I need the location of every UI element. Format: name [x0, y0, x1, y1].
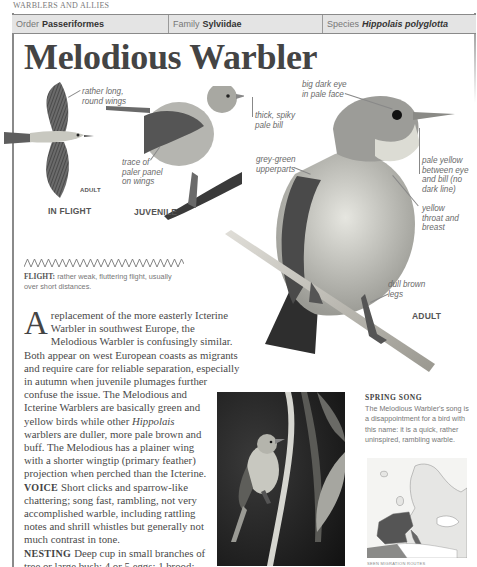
distribution-map — [367, 458, 467, 558]
species-key: Species — [327, 19, 359, 29]
annotation-eye: big dark eyein pale face — [302, 80, 347, 99]
section-label: WARBLERS AND ALLIES — [13, 1, 109, 10]
flight-description: FLIGHT: rather weak, fluttering flight, … — [24, 272, 184, 292]
page-title: Melodious Warbler — [24, 36, 317, 78]
intro-continued: Icterine Warblers are basically green an… — [24, 401, 214, 480]
species-value: Hippolais polyglotta — [362, 19, 448, 29]
species-description: Areplacement of the more easterly Icteri… — [24, 309, 239, 567]
drop-cap: A — [24, 310, 48, 336]
spring-song-heading: SPRING SONG — [365, 393, 422, 402]
caption-in-flight: IN FLIGHT — [48, 206, 91, 216]
nesting-section: NESTINGDeep cup in small branches of tre… — [24, 547, 214, 567]
caption-adult-flight: ADULT — [80, 187, 101, 193]
flight-pattern-zigzag-icon — [24, 258, 184, 268]
annotation-upperparts: grey-greenupperparts — [256, 155, 296, 174]
annotation-wing-panel: trace ofpaler panelon wings — [122, 158, 163, 187]
caption-juvenile: JUVENILE — [134, 207, 177, 217]
map-caption: SEEN MIGRATION ROUTES — [367, 561, 425, 566]
annotation-lore: pale yellowbetween eye and bill (nodark … — [422, 156, 468, 194]
spring-song-text: The Melodious Warbler's song is a disapp… — [365, 404, 473, 445]
leader-line-lore — [419, 128, 420, 174]
family-key: Family — [173, 19, 200, 29]
taxonomy-family: Family Sylviidae — [169, 15, 323, 33]
order-key: Order — [16, 19, 39, 29]
perched-warbler-photo — [217, 392, 345, 566]
taxonomy-species: Species Hippolais polyglotta — [323, 15, 476, 33]
family-value: Sylviidae — [203, 19, 242, 29]
annotation-throat: yellowthroat andbreast — [422, 204, 459, 233]
voice-label: VOICE — [24, 482, 58, 493]
voice-section: VOICEShort clicks and sparrow-like chatt… — [24, 481, 214, 547]
juvenile-bird-illustration — [104, 86, 244, 221]
taxonomy-order: Order Passeriformes — [12, 15, 169, 33]
intro-paragraph: Areplacement of the more easterly Icteri… — [24, 309, 243, 401]
order-value: Passeriformes — [42, 19, 104, 29]
annotation-legs: dull brownlegs — [388, 280, 425, 299]
taxonomy-bar: Order Passeriformes Family Sylviidae Spe… — [12, 14, 476, 34]
nesting-label: NESTING — [24, 548, 71, 559]
caption-adult: ADULT — [412, 311, 441, 321]
flight-label: FLIGHT: — [24, 272, 55, 281]
